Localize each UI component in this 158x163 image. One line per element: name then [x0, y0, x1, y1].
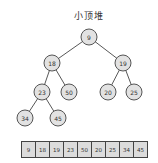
array-cell: 45: [134, 142, 147, 157]
tree-node: 25: [126, 84, 142, 100]
node-value: 19: [119, 60, 127, 67]
heap-tree: 91819235020253445: [0, 0, 158, 163]
node-value: 25: [130, 89, 138, 96]
tree-node: 18: [44, 55, 60, 71]
heap-array: 9 18 19 23 50 20 25 34 45: [21, 141, 148, 158]
node-value: 23: [38, 89, 46, 96]
node-value: 50: [65, 89, 73, 96]
tree-node: 9: [81, 29, 97, 45]
tree-node: 50: [61, 84, 77, 100]
array-cell: 9: [22, 142, 36, 157]
tree-node: 19: [115, 55, 131, 71]
array-cell: 34: [120, 142, 134, 157]
array-cell: 20: [92, 142, 106, 157]
node-value: 9: [87, 34, 91, 41]
tree-node: 45: [50, 110, 66, 126]
array-cell: 23: [64, 142, 78, 157]
node-value: 45: [54, 115, 62, 122]
tree-edges: [25, 37, 134, 118]
node-value: 18: [48, 60, 56, 67]
node-value: 34: [21, 115, 29, 122]
tree-node: 34: [17, 110, 33, 126]
array-cell: 18: [36, 142, 50, 157]
array-cell: 50: [78, 142, 92, 157]
tree-node: 20: [100, 84, 116, 100]
node-value: 20: [104, 89, 112, 96]
array-cell: 19: [50, 142, 64, 157]
tree-node: 23: [34, 84, 50, 100]
array-cell: 25: [106, 142, 120, 157]
